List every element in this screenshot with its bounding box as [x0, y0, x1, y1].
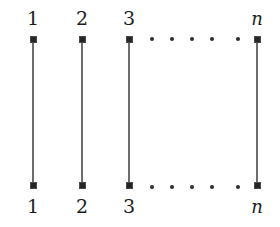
top-ellipsis-dot: [210, 37, 214, 41]
top-ellipsis-dot: [190, 37, 194, 41]
bottom-ellipsis-dot: [190, 185, 194, 189]
bottom-ellipsis-dot: [150, 185, 154, 189]
edge-1: [32, 39, 34, 185]
bottom-node-1: [30, 182, 37, 189]
top-node-3: [126, 36, 133, 43]
bottom-ellipsis-dot: [236, 185, 240, 189]
top-ellipsis-dot: [150, 37, 154, 41]
bottom-label-1: 1: [18, 197, 48, 216]
top-ellipsis-dot: [170, 37, 174, 41]
bottom-node-n: [254, 182, 261, 189]
edge-3: [128, 39, 130, 185]
bottom-label-n: n: [242, 197, 272, 216]
top-node-n: [254, 36, 261, 43]
edge-n: [256, 39, 258, 185]
top-label-3: 3: [114, 9, 144, 28]
edge-2: [81, 39, 83, 185]
top-ellipsis-dot: [236, 37, 240, 41]
bottom-ellipsis-dot: [170, 185, 174, 189]
bottom-label-3: 3: [114, 197, 144, 216]
top-label-n: n: [242, 9, 272, 28]
bottom-ellipsis-dot: [210, 185, 214, 189]
bottom-node-2: [79, 182, 86, 189]
top-label-2: 2: [67, 9, 97, 28]
top-label-1: 1: [18, 9, 48, 28]
bottom-label-2: 2: [67, 197, 97, 216]
top-node-1: [30, 36, 37, 43]
matching-graph-figure: 1 2 3 n 1 2 3 n: [0, 0, 280, 227]
top-node-2: [79, 36, 86, 43]
bottom-node-3: [126, 182, 133, 189]
